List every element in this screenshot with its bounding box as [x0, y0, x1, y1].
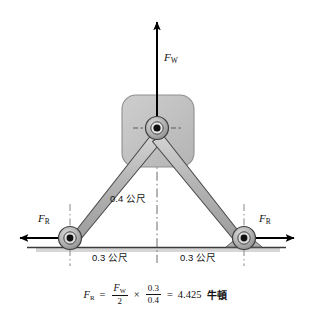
fraction1-denominator: 2 [115, 297, 124, 306]
equation-times-operator: × [133, 289, 141, 300]
fr-left-force-label: FR [38, 213, 50, 224]
reaction-force-equation: FR = FW 2 × 0.3 0.4 = 4.425 牛頓 [0, 283, 311, 306]
fr-right-force-label: FR [259, 213, 271, 224]
equation-equals-1: = [99, 289, 107, 300]
fw-force-label: FW [164, 52, 178, 63]
right-span-dimension-label: 0.3 公尺 [180, 253, 216, 263]
left-wheel-pivot [59, 227, 82, 250]
right-link-arm [153, 135, 240, 240]
equation-result-unit: 牛頓 [207, 287, 227, 302]
equation-result-value: 4.425 [178, 289, 202, 300]
height-dimension-label: 0.4 公尺 [110, 194, 146, 204]
equation-fraction-fw-over-2: FW 2 [112, 283, 128, 306]
figure-root: FW FR FR 0.4 公尺 0.3 公尺 0.3 公尺 FR = FW 2 … [0, 0, 311, 323]
equation-fraction-03-over-04: 0.3 0.4 [146, 284, 161, 306]
right-wheel-pivot [233, 227, 256, 250]
equation-lhs: FR [84, 289, 95, 300]
fraction1-numerator: FW [112, 283, 128, 294]
left-span-dimension-label: 0.3 公尺 [92, 253, 128, 263]
equation-equals-2: = [166, 289, 174, 300]
fraction2-denominator: 0.4 [146, 296, 161, 305]
left-link-arm [75, 135, 162, 240]
mechanism-diagram [0, 0, 311, 323]
fraction2-numerator: 0.3 [146, 284, 161, 293]
